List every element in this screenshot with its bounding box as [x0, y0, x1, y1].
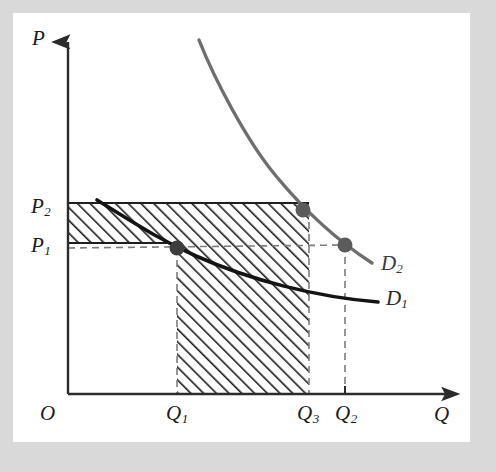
quantity-tick-q3-base: Q: [297, 401, 312, 425]
price-tick-p2-sub: 2: [44, 204, 51, 219]
x-axis-label: Q: [434, 404, 449, 425]
origin-label: O: [40, 403, 55, 424]
curve-label-d2-sub: 2: [396, 261, 403, 276]
curve-label-d1-base: D: [386, 286, 401, 310]
quantity-tick-q3-sub: 3: [313, 411, 320, 426]
quantity-tick-q1-sub: 1: [182, 411, 189, 426]
price-tick-p1-base: P: [31, 233, 44, 257]
curve-label-d1-sub: 1: [401, 296, 408, 311]
y-axis-label: P: [32, 28, 45, 49]
curve-label-d1: D1: [386, 288, 408, 310]
quantity-tick-q2-base: Q: [335, 401, 350, 425]
quantity-tick-q2: Q2: [335, 403, 357, 425]
curve-label-d2: D2: [381, 253, 403, 275]
price-tick-p1-sub: 1: [44, 243, 51, 258]
price-tick-p2: P2: [31, 196, 51, 218]
diagram-page: P Q O P2 P1 Q1 Q3 Q2 D2 D1: [0, 0, 496, 472]
point-d2-q2p1: [338, 238, 353, 253]
quantity-tick-q2-sub: 2: [351, 411, 358, 426]
quantity-tick-q3: Q3: [297, 403, 319, 425]
price-tick-p1: P1: [31, 235, 51, 257]
quantity-tick-q1-base: Q: [166, 401, 181, 425]
point-d2-q3p2: [296, 203, 311, 218]
point-d1-q1p1: [170, 241, 185, 256]
hatched-region: [68, 203, 309, 394]
curve-label-d2-base: D: [381, 251, 396, 275]
demand-curve-figure: [0, 0, 496, 472]
price-tick-p2-base: P: [31, 194, 44, 218]
quantity-tick-q1: Q1: [166, 403, 188, 425]
